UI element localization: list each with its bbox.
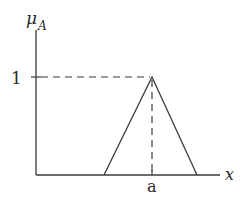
y-axis-label: μ	[26, 8, 37, 28]
x-axis-label: x	[225, 165, 234, 184]
y-tick-label-1: 1	[11, 68, 22, 88]
membership-function-diagram: μ A 1 a x	[0, 0, 245, 201]
x-tick-label-a: a	[147, 177, 157, 196]
triangle-membership-curve	[104, 77, 197, 175]
y-axis-label-subscript: A	[37, 19, 47, 33]
diagram-canvas: μ A 1 a x	[0, 0, 245, 201]
